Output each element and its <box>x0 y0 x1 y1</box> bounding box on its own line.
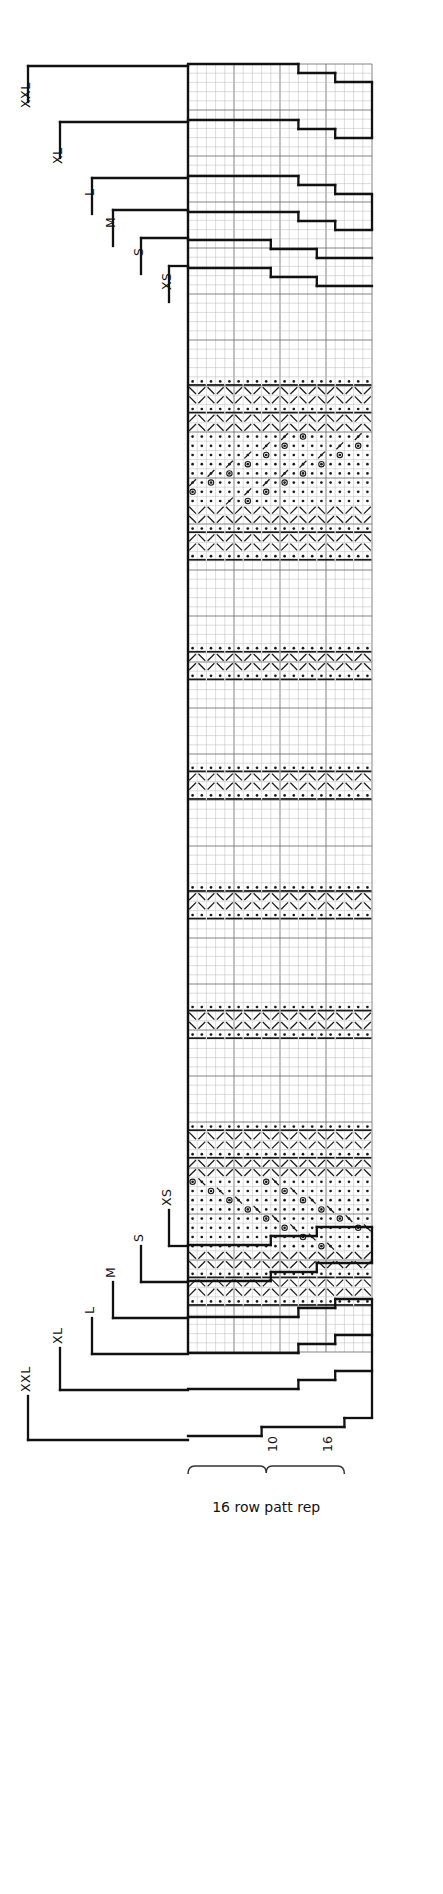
purl-stitch-icon <box>366 1217 369 1220</box>
purl-stitch-icon <box>302 435 305 438</box>
purl-stitch-icon <box>338 472 341 475</box>
purl-stitch-icon <box>302 674 305 677</box>
cable-bar-icon <box>189 771 206 773</box>
purl-stitch-icon <box>228 472 231 475</box>
cable-bar-icon <box>336 679 353 681</box>
purl-stitch-icon <box>320 1006 323 1009</box>
cable-bar-icon <box>317 679 334 681</box>
purl-stitch-icon <box>283 555 286 558</box>
purl-stitch-icon <box>283 481 286 484</box>
purl-stitch-icon <box>329 527 332 530</box>
purl-stitch-icon <box>256 1125 259 1128</box>
purl-stitch-icon <box>200 1153 203 1156</box>
purl-stitch-icon <box>348 555 351 558</box>
purl-stitch-icon <box>191 1226 194 1229</box>
purl-stitch-icon <box>320 1033 323 1036</box>
repeat-caption: 16 row patt rep <box>212 1499 320 1515</box>
cable-bar-icon <box>244 918 261 920</box>
purl-stitch-icon <box>311 408 314 411</box>
purl-stitch-icon <box>191 527 194 530</box>
purl-stitch-icon <box>311 444 314 447</box>
purl-stitch-icon <box>320 1217 323 1220</box>
purl-stitch-icon <box>311 1006 314 1009</box>
purl-stitch-icon <box>200 1208 203 1211</box>
cable-bar-icon <box>262 771 279 773</box>
purl-stitch-icon <box>366 490 369 493</box>
purl-stitch-icon <box>357 380 360 383</box>
cable-bar-icon <box>244 1010 261 1012</box>
purl-stitch-icon <box>228 490 231 493</box>
cable-bar-icon <box>225 1304 242 1306</box>
cable-bar-icon <box>207 1304 224 1306</box>
purl-stitch-icon <box>302 408 305 411</box>
purl-stitch-icon <box>357 1125 360 1128</box>
cable-bar-icon <box>262 890 279 892</box>
cable-bar-icon <box>281 679 298 681</box>
cable-bar-icon <box>299 412 316 414</box>
purl-stitch-icon <box>311 886 314 889</box>
purl-stitch-icon <box>348 1153 351 1156</box>
purl-stitch-icon <box>256 1006 259 1009</box>
purl-stitch-icon <box>237 555 240 558</box>
purl-stitch-icon <box>246 1226 249 1229</box>
cable-bar-icon <box>281 1010 298 1012</box>
purl-stitch-icon <box>246 1033 249 1036</box>
purl-stitch-icon <box>237 481 240 484</box>
cable-bar-icon <box>299 1037 316 1039</box>
purl-stitch-icon <box>320 435 323 438</box>
purl-stitch-icon <box>191 766 194 769</box>
cable-bar-icon <box>354 890 371 892</box>
purl-stitch-icon <box>338 766 341 769</box>
cable-bar-icon <box>207 1277 224 1279</box>
purl-stitch-icon <box>348 527 351 530</box>
purl-stitch-icon <box>320 1190 323 1193</box>
purl-stitch-icon <box>219 408 222 411</box>
cable-bar-icon <box>262 798 279 800</box>
purl-stitch-icon <box>219 435 222 438</box>
cable-bar-icon <box>336 1037 353 1039</box>
purl-stitch-icon <box>274 794 277 797</box>
purl-stitch-icon <box>311 1190 314 1193</box>
purl-stitch-icon <box>256 674 259 677</box>
purl-stitch-icon <box>219 1217 222 1220</box>
purl-stitch-icon <box>256 527 259 530</box>
purl-stitch-icon <box>283 647 286 650</box>
purl-stitch-icon <box>329 1153 332 1156</box>
purl-stitch-icon <box>191 463 194 466</box>
purl-stitch-icon <box>320 886 323 889</box>
purl-stitch-icon <box>219 647 222 650</box>
purl-stitch-icon <box>329 463 332 466</box>
cable-bar-icon <box>281 1037 298 1039</box>
purl-stitch-icon <box>283 380 286 383</box>
purl-stitch-icon <box>302 555 305 558</box>
purl-stitch-icon <box>357 674 360 677</box>
purl-stitch-icon <box>311 1245 314 1248</box>
cable-bar-icon <box>262 679 279 681</box>
purl-stitch-icon <box>338 1180 341 1183</box>
purl-stitch-icon <box>283 1245 286 1248</box>
purl-stitch-icon <box>210 380 213 383</box>
cable-bar-icon <box>189 679 206 681</box>
purl-stitch-icon <box>366 647 369 650</box>
purl-stitch-icon <box>265 1300 268 1303</box>
purl-stitch-icon <box>200 472 203 475</box>
purl-stitch-icon <box>283 1300 286 1303</box>
purl-stitch-icon <box>329 1272 332 1275</box>
purl-stitch-icon <box>265 1217 268 1220</box>
purl-stitch-icon <box>329 794 332 797</box>
purl-stitch-icon <box>338 647 341 650</box>
purl-stitch-icon <box>246 481 249 484</box>
purl-stitch-icon <box>191 674 194 677</box>
purl-stitch-icon <box>219 1236 222 1239</box>
purl-stitch-icon <box>338 1199 341 1202</box>
purl-stitch-icon <box>329 490 332 493</box>
purl-stitch-icon <box>274 527 277 530</box>
cable-bar-icon <box>354 1037 371 1039</box>
purl-stitch-icon <box>302 527 305 530</box>
purl-stitch-icon <box>348 463 351 466</box>
purl-stitch-icon <box>228 1272 231 1275</box>
purl-stitch-icon <box>283 1033 286 1036</box>
purl-stitch-icon <box>191 435 194 438</box>
purl-stitch-icon <box>366 1245 369 1248</box>
purl-stitch-icon <box>191 444 194 447</box>
